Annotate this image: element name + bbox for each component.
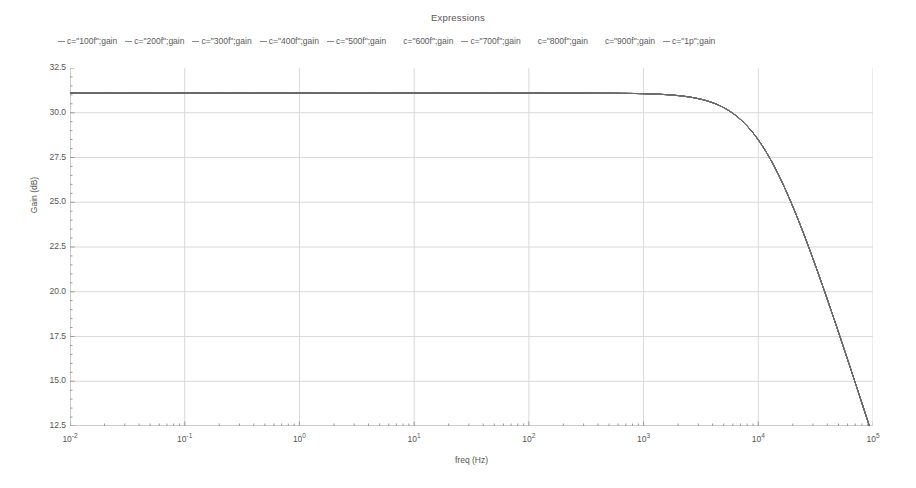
x-tick-exponent: 3 — [646, 432, 650, 439]
y-axis-tick-label: 17.5 — [26, 331, 66, 341]
x-axis-tick-label: 10-1 — [165, 432, 205, 444]
chart-legend: c="100f";gainc="200f";gainc="300f";gainc… — [58, 36, 858, 46]
legend-line-swatch-icon — [394, 41, 401, 42]
legend-item[interactable]: c="600f";gain — [394, 36, 453, 46]
chart-root: Expressions c="100f";gainc="200f";gainc=… — [0, 0, 916, 488]
legend-line-swatch-icon — [663, 41, 670, 42]
legend-line-swatch-icon — [529, 41, 536, 42]
x-tick-exponent: 1 — [417, 432, 421, 439]
x-tick-exponent: 5 — [876, 432, 880, 439]
x-tick-mantissa: 10 — [866, 434, 875, 444]
legend-item[interactable]: c="700f";gain — [461, 36, 520, 46]
data-series-line — [70, 93, 873, 426]
legend-item-label: c="1p";gain — [672, 36, 715, 46]
data-series-line — [70, 93, 873, 426]
x-tick-exponent: 0 — [302, 432, 306, 439]
data-series-line — [70, 93, 873, 426]
data-curves — [70, 93, 873, 426]
plot-area — [70, 68, 873, 426]
x-axis-tick-label: 101 — [394, 432, 434, 444]
x-tick-mantissa: 10 — [177, 434, 186, 444]
x-axis-tick-label: 100 — [279, 432, 319, 444]
legend-item[interactable]: c="1p";gain — [663, 36, 715, 46]
data-series-line — [70, 93, 873, 426]
x-tick-exponent: -2 — [72, 432, 78, 439]
legend-line-swatch-icon — [192, 41, 199, 42]
x-tick-exponent: 4 — [761, 432, 765, 439]
x-tick-mantissa: 10 — [522, 434, 531, 444]
data-series-line — [70, 93, 873, 426]
y-axis-tick-label: 32.5 — [26, 62, 66, 72]
legend-item-label: c="800f";gain — [538, 36, 588, 46]
legend-line-swatch-icon — [58, 41, 65, 42]
x-tick-mantissa: 10 — [408, 434, 417, 444]
legend-line-swatch-icon — [125, 41, 132, 42]
x-axis-tick-label: 105 — [853, 432, 893, 444]
gridlines — [70, 68, 873, 426]
x-axis-tick-label: 10-2 — [50, 432, 90, 444]
x-axis-title: freq (Hz) — [70, 455, 873, 465]
data-series-line — [70, 93, 873, 426]
legend-item[interactable]: c="800f";gain — [529, 36, 588, 46]
legend-line-swatch-icon — [260, 41, 267, 42]
legend-item-label: c="200f";gain — [134, 36, 184, 46]
y-axis-tick-label: 22.5 — [26, 241, 66, 251]
legend-item[interactable]: c="100f";gain — [58, 36, 117, 46]
data-series-line — [70, 93, 873, 426]
y-axis-tick-label: 27.5 — [26, 152, 66, 162]
data-series-line — [70, 93, 873, 426]
legend-item-label: c="300f";gain — [201, 36, 251, 46]
y-axis-tick-label: 15.0 — [26, 375, 66, 385]
legend-item-label: c="900f";gain — [605, 36, 655, 46]
legend-line-swatch-icon — [596, 41, 603, 42]
legend-line-swatch-icon — [461, 41, 468, 42]
legend-item[interactable]: c="300f";gain — [192, 36, 251, 46]
data-series-line — [70, 93, 873, 426]
legend-item-label: c="700f";gain — [470, 36, 520, 46]
legend-item[interactable]: c="400f";gain — [260, 36, 319, 46]
legend-line-swatch-icon — [327, 41, 334, 42]
x-tick-mantissa: 10 — [62, 434, 71, 444]
x-tick-exponent: 2 — [532, 432, 536, 439]
data-series-line — [70, 93, 873, 426]
x-tick-mantissa: 10 — [293, 434, 302, 444]
x-tick-exponent: -1 — [187, 432, 193, 439]
legend-item-label: c="100f";gain — [67, 36, 117, 46]
plot-canvas — [70, 68, 873, 426]
x-axis-tick-label: 103 — [624, 432, 664, 444]
y-axis-tick-label: 12.5 — [26, 420, 66, 430]
legend-item[interactable]: c="500f";gain — [327, 36, 386, 46]
page-title: Expressions — [0, 12, 916, 23]
y-axis-tick-label: 25.0 — [26, 196, 66, 206]
legend-item-label: c="500f";gain — [336, 36, 386, 46]
y-axis-tick-label: 20.0 — [26, 286, 66, 296]
x-axis-tick-label: 104 — [738, 432, 778, 444]
legend-item-label: c="600f";gain — [403, 36, 453, 46]
x-tick-mantissa: 10 — [752, 434, 761, 444]
x-axis-tick-label: 102 — [509, 432, 549, 444]
legend-item-label: c="400f";gain — [269, 36, 319, 46]
legend-item[interactable]: c="900f";gain — [596, 36, 655, 46]
y-axis-tick-label: 30.0 — [26, 107, 66, 117]
legend-item[interactable]: c="200f";gain — [125, 36, 184, 46]
